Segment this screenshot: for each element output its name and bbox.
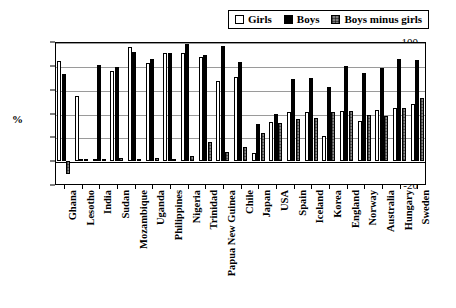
bar-girls (411, 104, 415, 161)
bar-girls (216, 81, 220, 161)
x-tick-mark (329, 185, 330, 189)
bar-group (108, 42, 126, 185)
x-axis-category-label: Trinidad (209, 190, 220, 230)
bar-boys (309, 78, 313, 161)
bar-chart: Girls Boys Boys minus girls % -200204060… (0, 0, 456, 308)
x-tick-mark (223, 185, 224, 189)
bar-boys (397, 59, 401, 161)
x-tick-mark (417, 185, 418, 189)
bar-group (196, 42, 214, 185)
bar-girls (110, 71, 114, 162)
black-square-icon (284, 15, 293, 24)
x-axis-category-label: Philippines (174, 190, 185, 240)
bar-girls (234, 77, 238, 162)
x-axis-category-label: Chile (245, 190, 256, 214)
x-axis-category-label: Iceland (315, 190, 326, 223)
bar-boys-minus-girls (243, 147, 247, 161)
bar-boys (415, 60, 419, 161)
bar-group (214, 42, 232, 185)
x-axis-category-label: Korea (333, 190, 344, 218)
bar-girls (57, 61, 61, 161)
bar-group (355, 42, 373, 185)
bar-girls (358, 121, 362, 162)
bar-group (126, 42, 144, 185)
bar-group (90, 42, 108, 185)
bar-girls (181, 53, 185, 161)
x-tick-mark (400, 185, 401, 189)
bar-group (55, 42, 73, 185)
bar-boys-minus-girls (225, 152, 229, 162)
gray-hatched-square-icon (331, 15, 340, 24)
x-tick-mark (276, 185, 277, 189)
legend-label-boys-minus-girls: Boys minus girls (344, 14, 422, 25)
bar-boys (79, 159, 83, 161)
x-tick-mark (64, 185, 65, 189)
legend-entry-boys-minus-girls: Boys minus girls (331, 14, 422, 25)
bar-boys-minus-girls (102, 159, 106, 161)
bar-group (338, 42, 356, 185)
bar-boys-minus-girls (278, 123, 282, 161)
x-axis-category-label: Japan (262, 190, 273, 217)
bar-girls (375, 110, 379, 161)
bar-group (285, 42, 303, 185)
bars-layer (55, 42, 426, 185)
bar-group (391, 42, 409, 185)
bar-boys (97, 65, 101, 162)
bar-girls (340, 111, 344, 161)
x-axis-category-label: Spain (298, 190, 309, 216)
bar-group (408, 42, 426, 185)
bar-boys-minus-girls (190, 156, 194, 161)
bar-group (73, 42, 91, 185)
x-axis-labels: GhanaLesothoIndiaSudanMozambiqueUgandaPh… (55, 190, 426, 305)
bar-girls (75, 96, 79, 162)
bar-group (267, 42, 285, 185)
bar-girls (128, 47, 132, 161)
x-tick-mark (170, 185, 171, 189)
x-axis-category-label: Hungary (404, 190, 415, 230)
x-axis-category-label: Sweden (421, 190, 432, 224)
x-tick-mark (364, 185, 365, 189)
bar-girls (163, 53, 167, 161)
legend-label-boys: Boys (297, 14, 320, 25)
bar-boys (132, 52, 136, 162)
bar-boys (115, 67, 119, 161)
x-axis-category-label: Papua New Guinea (227, 190, 238, 276)
x-tick-mark (241, 185, 242, 189)
x-tick-mark (347, 185, 348, 189)
bar-group (249, 42, 267, 185)
bar-boys-minus-girls (137, 159, 141, 161)
bar-girls (287, 112, 291, 161)
bar-boys-minus-girls (384, 116, 388, 161)
bar-boys-minus-girls (314, 118, 318, 161)
bar-boys (291, 79, 295, 161)
bar-boys (344, 66, 348, 161)
x-axis-category-label: England (351, 190, 362, 228)
bar-boys-minus-girls (208, 142, 212, 161)
bar-girls (199, 57, 203, 161)
bar-boys-minus-girls (296, 119, 300, 161)
x-tick-mark (311, 185, 312, 189)
bar-group (161, 42, 179, 185)
x-tick-mark (135, 185, 136, 189)
x-axis-category-label: Ghana (68, 190, 79, 220)
bar-boys (62, 74, 66, 161)
bar-group (232, 42, 250, 185)
x-tick-mark (382, 185, 383, 189)
bar-girls (393, 108, 397, 162)
x-tick-mark (99, 185, 100, 189)
bar-boys (221, 46, 225, 162)
bar-girls (252, 153, 256, 161)
bar-boys-minus-girls (402, 108, 406, 162)
bar-girls (305, 112, 309, 161)
x-axis-category-label: Sudan (121, 190, 132, 219)
x-tick-mark (294, 185, 295, 189)
bar-boys-minus-girls (331, 112, 335, 161)
bar-boys-minus-girls (367, 115, 371, 161)
bar-boys (185, 44, 189, 161)
bar-boys (362, 73, 366, 161)
bar-group (320, 42, 338, 185)
bar-boys-minus-girls (66, 161, 70, 174)
bar-group (373, 42, 391, 185)
x-tick-mark (117, 185, 118, 189)
bar-group (143, 42, 161, 185)
